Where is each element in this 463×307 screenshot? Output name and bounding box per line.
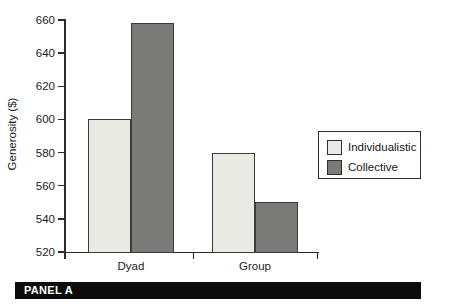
bar-dyad-individualistic xyxy=(88,119,131,253)
collective-swatch xyxy=(327,160,342,175)
y-axis-tick xyxy=(58,52,65,53)
y-axis-tick xyxy=(58,185,65,186)
y-axis-tick xyxy=(58,19,65,20)
x-axis-category-label: Group xyxy=(215,259,295,273)
y-axis-tick xyxy=(58,152,65,153)
y-axis-tick-label: 620 xyxy=(24,79,55,93)
y-axis-tick-label: 560 xyxy=(24,179,55,193)
bar-dyad-collective xyxy=(131,23,174,253)
bar-group-individualistic xyxy=(212,153,255,253)
y-axis-tick-label: 660 xyxy=(24,13,55,27)
legend-item-collective: Collective xyxy=(319,157,420,177)
y-axis-line xyxy=(64,19,66,259)
bar-group-collective xyxy=(255,202,298,253)
legend: Individualistic Collective xyxy=(318,131,421,179)
y-axis-tick-label: 520 xyxy=(24,245,55,259)
y-axis-tick xyxy=(58,86,65,87)
figure-panel-a: Generosity ($) 520540560580600620640660D… xyxy=(0,0,463,307)
x-axis-tick xyxy=(193,252,194,259)
panel-label: PANEL A xyxy=(24,284,73,296)
y-axis-tick xyxy=(58,119,65,120)
panel-label-bar: PANEL A xyxy=(15,282,421,299)
y-axis-tick-label: 540 xyxy=(24,212,55,226)
y-axis-label: Generosity ($) xyxy=(6,34,18,234)
individualistic-swatch xyxy=(327,140,342,155)
x-axis-tick xyxy=(317,252,318,259)
y-axis-tick-label: 640 xyxy=(24,46,55,60)
y-axis-tick xyxy=(58,218,65,219)
y-axis-tick xyxy=(58,251,65,252)
x-axis-category-label: Dyad xyxy=(91,259,171,273)
legend-item-individualistic: Individualistic xyxy=(319,137,420,157)
legend-label-individualistic: Individualistic xyxy=(348,141,416,153)
y-axis-tick-label: 580 xyxy=(24,146,55,160)
legend-label-collective: Collective xyxy=(348,161,398,173)
y-axis-tick-label: 600 xyxy=(24,112,55,126)
